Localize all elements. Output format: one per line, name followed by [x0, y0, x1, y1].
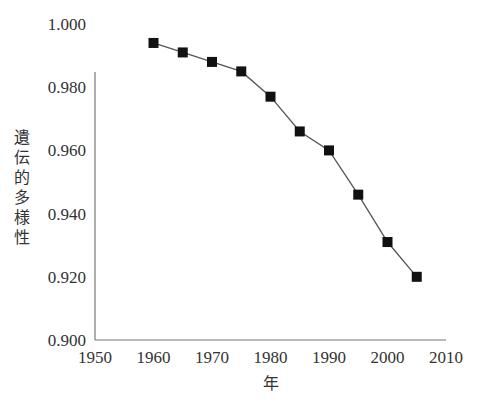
- data-point-marker: [383, 237, 393, 247]
- data-point-marker: [149, 38, 159, 48]
- y-tick-label: 0.960: [48, 141, 86, 160]
- y-tick-label: 0.980: [48, 78, 86, 97]
- y-tick-label: 0.920: [48, 268, 86, 287]
- x-axis-label: 年: [263, 370, 279, 394]
- y-axis-label: 遺伝的多様性: [12, 128, 32, 248]
- data-point-marker: [295, 126, 305, 136]
- x-tick-label: 2000: [371, 348, 405, 367]
- data-point-marker: [353, 190, 363, 200]
- y-tick-label: 0.940: [48, 205, 86, 224]
- x-tick-label: 2010: [429, 348, 463, 367]
- plot-area: 0.9000.9200.9400.9600.9801.0001950196019…: [0, 0, 484, 406]
- x-tick-label: 1970: [195, 348, 229, 367]
- x-tick-label: 1950: [78, 348, 112, 367]
- x-tick-label: 1990: [312, 348, 346, 367]
- x-tick-label: 1960: [137, 348, 171, 367]
- data-point-marker: [236, 66, 246, 76]
- x-tick-label: 1980: [254, 348, 288, 367]
- data-point-marker: [178, 47, 188, 57]
- chart: 0.9000.9200.9400.9600.9801.0001950196019…: [0, 0, 484, 406]
- data-line: [154, 43, 417, 277]
- y-tick-label: 1.000: [48, 15, 86, 34]
- data-point-marker: [412, 272, 422, 282]
- data-point-marker: [324, 145, 334, 155]
- data-point-marker: [207, 57, 217, 67]
- data-point-marker: [266, 92, 276, 102]
